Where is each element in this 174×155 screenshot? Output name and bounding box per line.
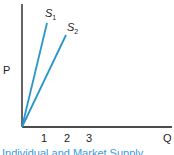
- figure-caption: Individual and Market Supply: [2, 147, 143, 155]
- x-tick-1: 1: [41, 133, 47, 144]
- s2-label: S2: [67, 22, 78, 33]
- s2-label-sub: 2: [74, 28, 78, 35]
- supply-curve-s1: [22, 23, 47, 127]
- s1-label-sub: 1: [52, 14, 56, 21]
- x-tick-3: 3: [86, 133, 92, 144]
- x-axis-label: Q: [163, 133, 172, 144]
- x-tick-2: 2: [64, 133, 70, 144]
- supply-curve-s2: [22, 35, 66, 127]
- s1-label: S1: [45, 8, 56, 19]
- y-axis-label: P: [3, 65, 10, 76]
